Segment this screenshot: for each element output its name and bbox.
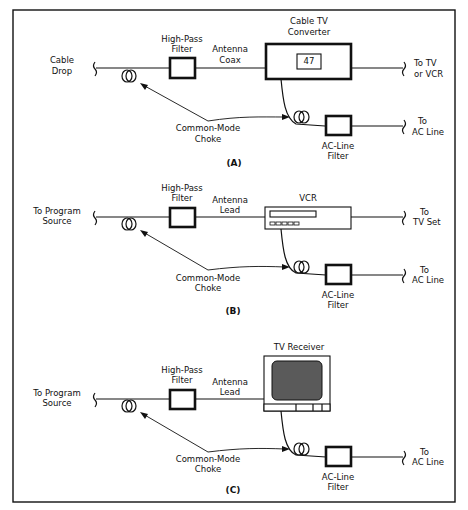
lead-label-line2: Coax [219,55,240,65]
panel-caption: (A) [226,158,241,168]
ac-filter-label-line1: AC-Line [322,290,354,300]
rfi-choke-filter-diagram: Cable Drop High-Pass Filter Antenna Coax… [0,0,468,510]
source-label-line1: Cable [50,55,74,65]
panel-b: To Program Source High-Pass Filter Anten… [32,183,444,316]
ac-output-label-line1: To [417,116,427,126]
choke-label-line1: Common-Mode [176,454,241,464]
arrowhead-icon [140,83,148,90]
device-label: TV Receiver [273,342,325,352]
output-label-line1: To [419,207,429,217]
common-mode-choke-icon [122,70,136,82]
vcr-display [270,211,316,217]
arrowhead-icon [282,114,290,120]
ac-line-filter [326,265,351,284]
ac-filter-label-line1: AC-Line [322,472,354,482]
vcr-buttons [270,222,299,225]
panel-caption: (B) [225,306,240,316]
brace-icon [94,62,97,76]
vcr-unit [265,207,351,229]
source-label-line2: Source [42,398,71,408]
tv-receiver [264,356,330,411]
filter-label-line1: High-Pass [161,365,203,375]
arrowhead-icon [140,230,148,237]
brace-icon [94,393,97,407]
high-pass-filter [170,390,195,409]
lead-label-line2: Lead [220,387,240,397]
choke-label-line2: Choke [195,283,221,293]
ac-line-filter [326,447,351,466]
choke-pointer-arrow [143,232,208,270]
choke-label-line1: Common-Mode [176,273,241,283]
filter-label-line2: Filter [171,375,193,385]
ac-output-label-line1: To [419,447,429,457]
common-mode-choke-icon [122,400,136,412]
device-label-line1: Cable TV [290,16,328,26]
brace-icon [403,120,406,134]
choke-label-line1: Common-Mode [176,123,241,133]
ac-filter-label-line2: Filter [327,151,349,161]
output-label-line1: To TV [413,58,437,68]
choke-pointer-arrow [208,117,285,121]
filter-label-line1: High-Pass [161,34,203,44]
ac-filter-label-line2: Filter [327,300,349,310]
ac-filter-label-line1: AC-Line [322,141,354,151]
source-label-line1: To Program [32,206,81,216]
tv-control-panel [264,404,330,411]
lead-label-line1: Antenna [212,195,248,205]
high-pass-filter [170,208,195,227]
ac-output-label-line2: AC Line [412,127,444,137]
common-mode-choke-icon [294,261,309,273]
source-label-line1: To Program [32,388,81,398]
choke-pointer-arrow [143,85,208,121]
tv-screen [272,361,322,400]
choke-label-line2: Choke [195,464,221,474]
panel-c: To Program Source High-Pass Filter Anten… [32,342,444,495]
brace-icon [403,211,406,225]
choke-label-line2: Choke [195,134,221,144]
ac-line-filter [326,116,351,135]
lead-label-line1: Antenna [212,377,248,387]
output-label-line2: or VCR [414,69,443,79]
filter-label-line2: Filter [171,193,193,203]
choke-pointer-arrow [208,448,285,452]
diagram-frame [13,10,455,502]
brace-icon [403,62,406,76]
source-label-line2: Source [42,216,71,226]
common-mode-choke-icon [294,111,309,123]
common-mode-choke-icon [294,443,309,455]
lead-label-line1: Antenna [212,44,248,54]
high-pass-filter [170,58,195,78]
brace-icon [403,451,406,465]
ac-output-label-line2: AC Line [412,457,444,467]
choke-pointer-arrow [143,414,208,452]
brace-icon [403,269,406,283]
common-mode-choke-icon [122,218,136,230]
channel-number: 47 [304,56,315,66]
brace-icon [94,211,97,225]
ac-filter-label-line2: Filter [327,482,349,492]
choke-pointer-arrow [208,266,285,270]
device-label: VCR [299,193,317,203]
arrowhead-icon [140,412,148,419]
source-label-line2: Drop [52,66,72,76]
ac-output-label-line2: AC Line [412,275,444,285]
filter-label-line2: Filter [171,44,193,54]
output-label-line2: TV Set [412,217,441,227]
panel-caption: (C) [226,485,241,495]
power-cord [281,79,325,126]
device-label-line2: Converter [288,27,331,37]
panel-a: Cable Drop High-Pass Filter Antenna Coax… [50,16,444,168]
ac-output-label-line1: To [419,265,429,275]
lead-label-line2: Lead [220,205,240,215]
filter-label-line1: High-Pass [161,183,203,193]
